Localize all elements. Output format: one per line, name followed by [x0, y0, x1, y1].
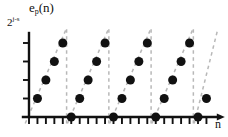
data-point	[75, 94, 84, 103]
plot-canvas	[0, 0, 228, 137]
axis-ticks	[23, 43, 206, 124]
y-tick-exponent: j-s	[13, 15, 20, 23]
data-point	[126, 76, 135, 85]
data-point	[160, 94, 169, 103]
axes	[23, 33, 225, 120]
data-point	[151, 113, 160, 122]
sawtooth-error-figure: ep(n) 2j-s n	[0, 0, 228, 137]
data-point	[143, 39, 152, 48]
y-axis-label-argument: (n)	[39, 0, 54, 15]
data-point	[92, 57, 101, 66]
data-point	[185, 39, 194, 48]
data-point	[109, 113, 118, 122]
data-point	[41, 76, 50, 85]
data-point	[101, 39, 110, 48]
data-point	[117, 94, 126, 103]
data-point	[50, 57, 59, 66]
x-axis-label: n	[215, 118, 221, 130]
y-axis-top-tick-label: 2j-s	[7, 16, 20, 28]
data-point	[194, 113, 203, 122]
data-point	[202, 94, 211, 103]
data-point	[84, 76, 93, 85]
data-point	[58, 39, 67, 48]
data-point	[134, 57, 143, 66]
data-point	[33, 94, 42, 103]
data-point	[177, 57, 186, 66]
data-point	[67, 113, 76, 122]
y-axis-label: ep(n)	[29, 1, 54, 16]
data-point	[168, 76, 177, 85]
